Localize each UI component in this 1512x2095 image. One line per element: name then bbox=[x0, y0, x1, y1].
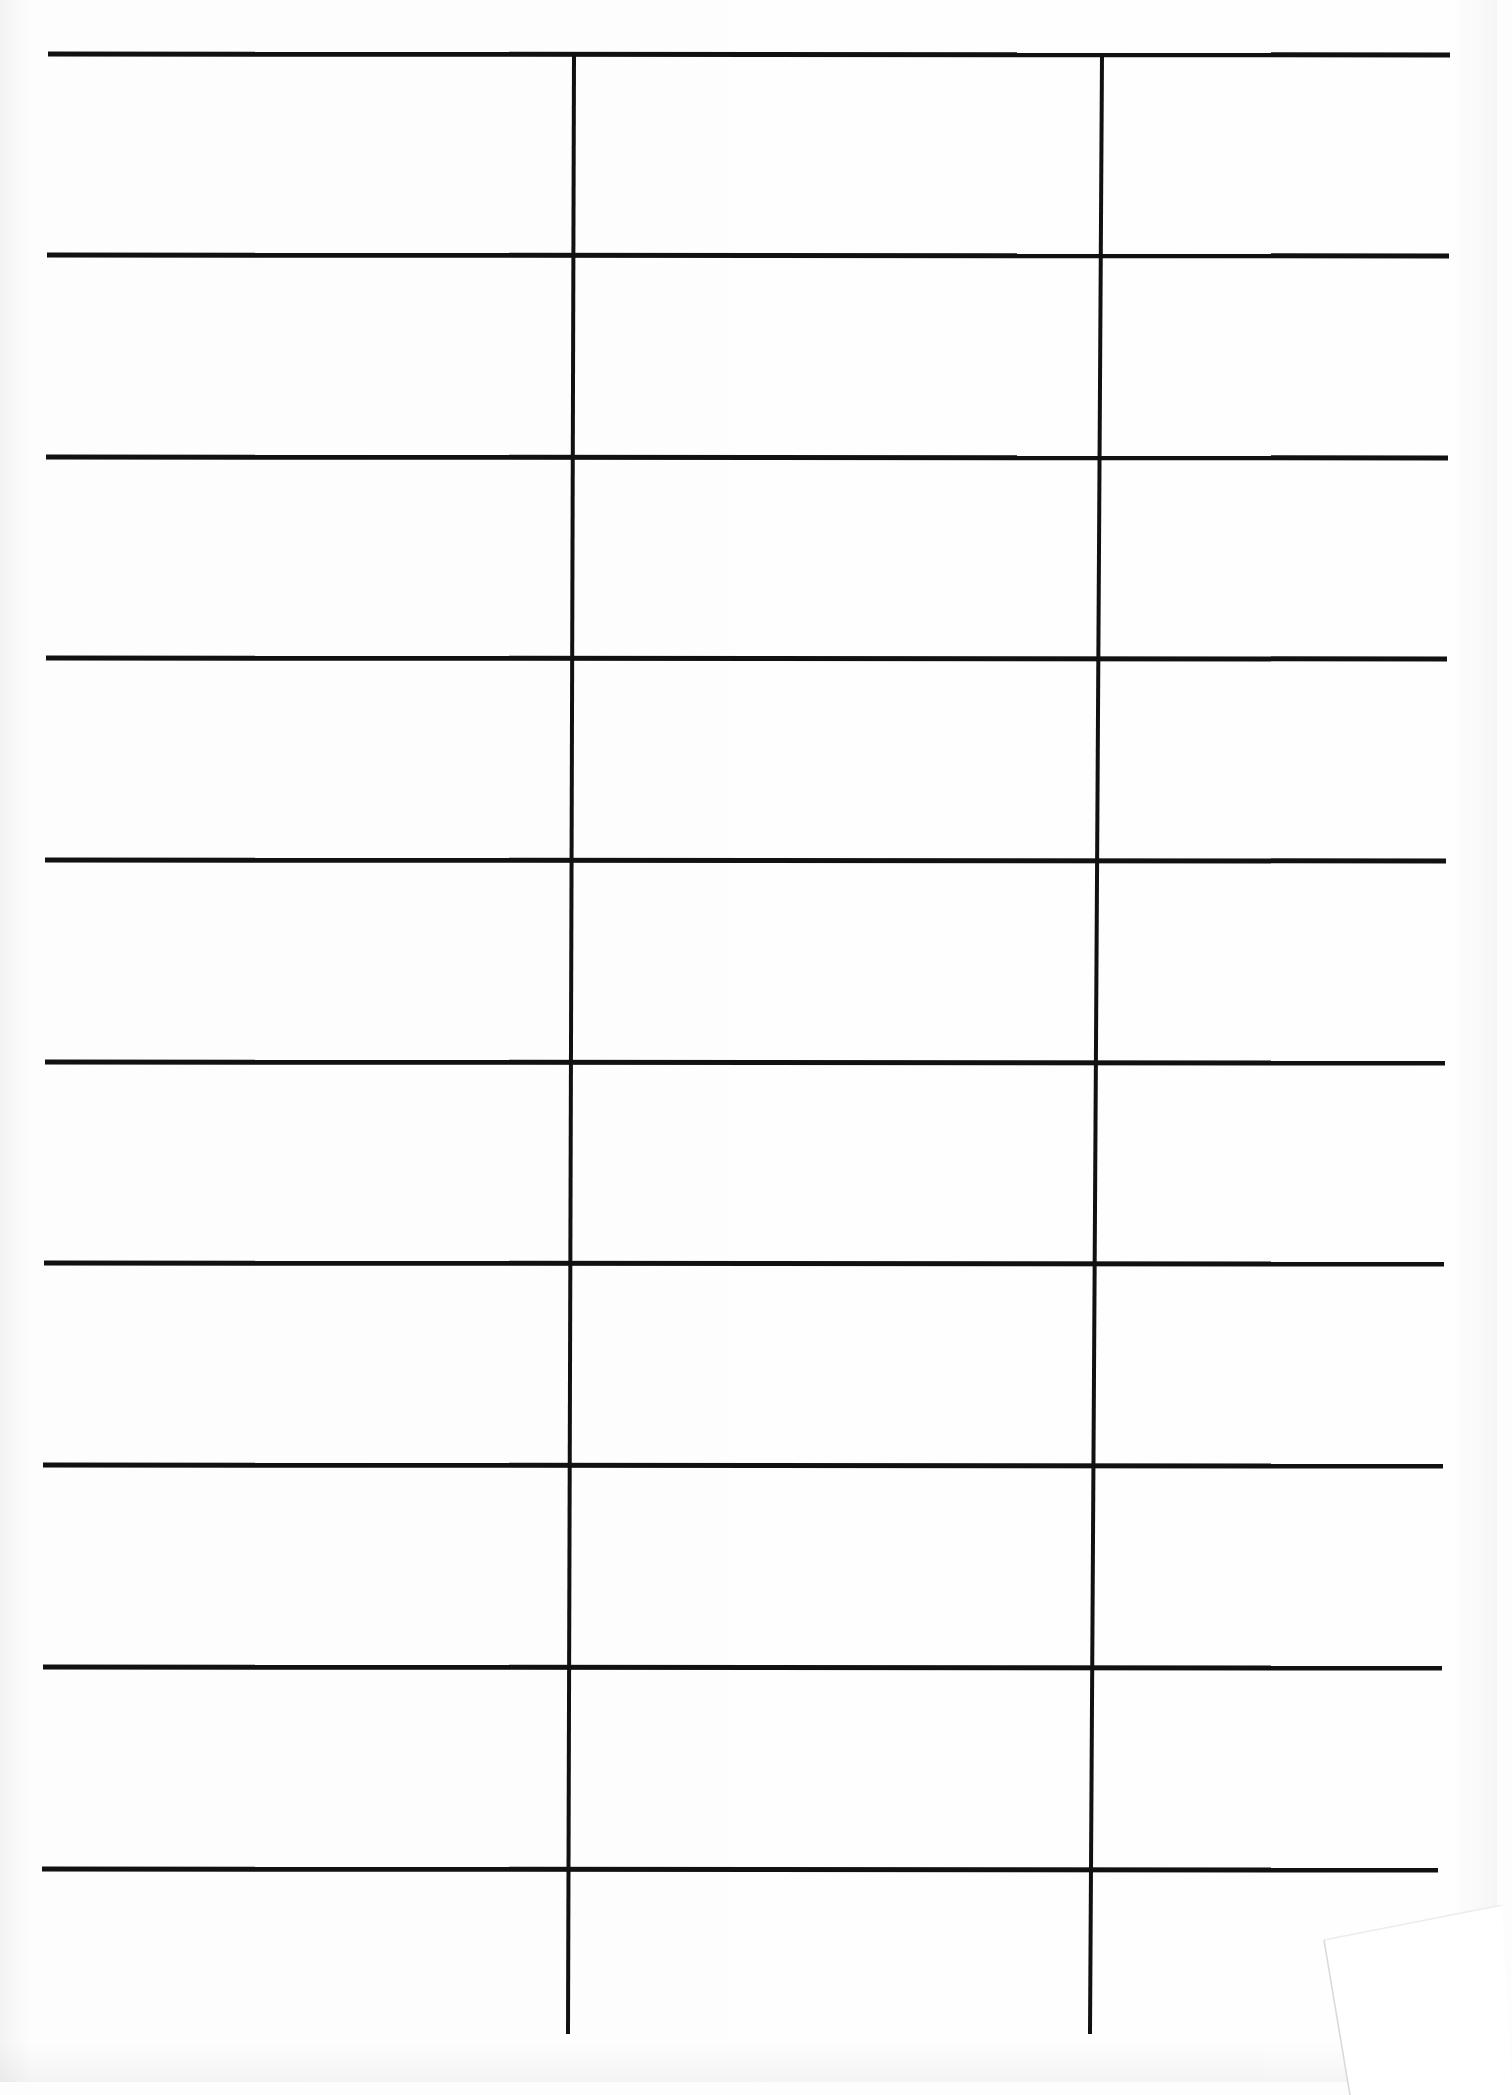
horizontal-rule-10 bbox=[42, 1869, 1438, 1870]
horizontal-rule-1 bbox=[48, 54, 1450, 55]
horizontal-rule-6 bbox=[45, 1062, 1445, 1063]
folded-paper-corner bbox=[1322, 1905, 1512, 2095]
vertical-rules bbox=[568, 55, 1102, 2034]
horizontal-rules bbox=[42, 54, 1450, 1870]
horizontal-rule-2 bbox=[47, 255, 1449, 256]
horizontal-rule-4 bbox=[46, 658, 1447, 659]
scan-shadow bbox=[0, 2042, 1497, 2082]
horizontal-rule-8 bbox=[43, 1465, 1443, 1466]
horizontal-rule-7 bbox=[44, 1263, 1444, 1264]
horizontal-rule-5 bbox=[45, 860, 1446, 861]
horizontal-rule-3 bbox=[46, 457, 1448, 458]
vertical-rule-1 bbox=[568, 55, 574, 2034]
vertical-rule-2 bbox=[1090, 55, 1102, 2034]
horizontal-rule-9 bbox=[43, 1667, 1442, 1668]
